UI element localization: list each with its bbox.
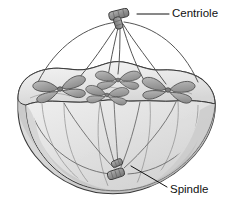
centriole-top [108,8,129,30]
label-spindle: Spindle [170,183,208,195]
label-centriole: Centriole [172,7,218,19]
diagram-figure: Centriole Spindle [0,0,231,203]
cell-division-diagram: Centriole Spindle [0,0,231,203]
